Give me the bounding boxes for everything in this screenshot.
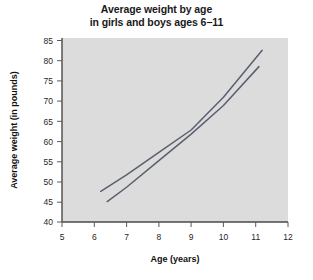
y-tick-label-80: 80 [44, 56, 54, 66]
x-tick-label-8: 8 [157, 232, 162, 242]
x-tick-label-7: 7 [124, 232, 129, 242]
y-tick-label-60: 60 [44, 137, 54, 147]
chart-figure: Average weight by age in girls and boys … [0, 0, 313, 280]
plot-area-background [62, 38, 288, 222]
y-tick-label-45: 45 [44, 197, 54, 207]
x-axis-title: Age (years) [150, 254, 199, 264]
line-chart-plot: 85 80 75 70 65 60 55 50 45 40 5 6 7 [0, 0, 313, 280]
y-tick-label-85: 85 [44, 36, 54, 46]
x-tick-label-11: 11 [251, 232, 260, 242]
y-tick-label-65: 65 [44, 117, 54, 127]
x-tick-label-9: 9 [189, 232, 194, 242]
y-axis-title: Average weight (in pounds) [9, 71, 19, 189]
y-tick-label-70: 70 [44, 96, 54, 106]
y-tick-label-75: 75 [44, 76, 54, 86]
y-tick-label-55: 55 [44, 157, 54, 167]
y-tick-label-40: 40 [44, 217, 54, 227]
x-tick-label-10: 10 [219, 232, 229, 242]
x-axis-tick-labels: 5 6 7 8 9 10 11 12 [60, 232, 293, 242]
y-axis-ticks [57, 41, 62, 223]
x-tick-label-6: 6 [92, 232, 97, 242]
x-tick-label-12: 12 [283, 232, 293, 242]
y-axis-tick-labels: 85 80 75 70 65 60 55 50 45 40 [44, 36, 54, 227]
y-tick-label-50: 50 [44, 177, 54, 187]
x-tick-label-5: 5 [60, 232, 65, 242]
x-axis-ticks [62, 222, 288, 227]
